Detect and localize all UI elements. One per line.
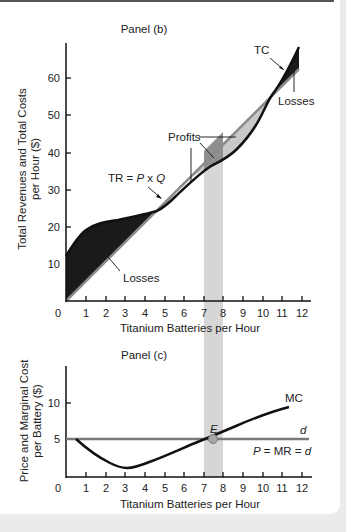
c-xtick-1: 1 bbox=[83, 482, 89, 494]
c-xtick-4: 4 bbox=[142, 482, 148, 494]
panel-c: 5 10 0 1 2 3 4 5 6 7 8 9 10 11 12 Panel … bbox=[18, 349, 312, 510]
tr-line bbox=[66, 69, 299, 301]
b-xtick-10: 10 bbox=[257, 307, 269, 319]
panel-c-ylabel-line2: per Battery ($) bbox=[31, 384, 43, 458]
losses-bottom-pointer bbox=[108, 257, 120, 271]
b-ytick-60: 60 bbox=[48, 72, 60, 84]
b-xtick-3: 3 bbox=[122, 307, 128, 319]
b-xtick-4: 4 bbox=[142, 307, 148, 319]
b-y-tick-labels: 10 20 30 40 50 60 bbox=[48, 72, 60, 270]
b-ytick-30: 30 bbox=[48, 184, 60, 196]
b-xtick-11: 11 bbox=[276, 307, 287, 319]
panel-c-ylabel-line1: Price and Marginal Cost bbox=[18, 359, 30, 483]
pmr-label: P = MR = d bbox=[253, 445, 312, 457]
c-ytick-5: 5 bbox=[54, 433, 60, 445]
panel-c-ylabel: Price and Marginal Cost per Battery ($) bbox=[18, 359, 43, 483]
b-xtick-0: 0 bbox=[55, 307, 61, 319]
losses-top-label: Losses bbox=[278, 95, 315, 107]
b-xtick-8: 8 bbox=[220, 307, 226, 319]
c-xtick-6: 6 bbox=[181, 482, 187, 494]
b-xtick-12: 12 bbox=[296, 307, 308, 319]
b-xtick-9: 9 bbox=[240, 307, 246, 319]
panel-b-xlabel: Titanium Batteries per Hour bbox=[120, 322, 260, 334]
panel-b-title: Panel (b) bbox=[121, 23, 168, 35]
tr-label-prefix: TR = bbox=[108, 172, 136, 184]
panel-c-title: Panel (c) bbox=[121, 349, 167, 361]
c-xtick-8: 8 bbox=[220, 482, 226, 494]
b-x-tick-labels: 0 1 2 3 4 5 6 7 8 9 10 11 12 bbox=[55, 307, 308, 319]
b-ytick-50: 50 bbox=[48, 109, 60, 121]
panel-c-xlabel: Titanium Batteries per Hour bbox=[120, 498, 260, 510]
b-xtick-5: 5 bbox=[162, 307, 168, 319]
c-y-tick-labels: 5 10 bbox=[48, 397, 60, 445]
panel-b-ylabel-line1: Total Revenues and Total Costs bbox=[16, 88, 28, 250]
tr-label: TR = P x Q bbox=[108, 172, 165, 184]
c-xtick-7: 7 bbox=[201, 482, 207, 494]
b-xtick-2: 2 bbox=[103, 307, 109, 319]
tc-label: TC bbox=[254, 44, 269, 56]
c-xtick-12: 12 bbox=[296, 482, 308, 494]
losses-bottom-label: Losses bbox=[123, 272, 160, 284]
mc-curve bbox=[76, 407, 289, 468]
pmr-label-d: d bbox=[305, 445, 312, 457]
c-xtick-11: 11 bbox=[276, 482, 287, 494]
c-ytick-10: 10 bbox=[48, 397, 60, 409]
e-label: E bbox=[210, 423, 218, 435]
b-xtick-1: 1 bbox=[83, 307, 89, 319]
c-xtick-0: 0 bbox=[55, 482, 61, 494]
tr-label-mid: x bbox=[144, 172, 156, 184]
panel-b-ylabel: Total Revenues and Total Costs per Hour … bbox=[16, 88, 41, 250]
b-xtick-6: 6 bbox=[181, 307, 187, 319]
b-ytick-40: 40 bbox=[48, 147, 60, 159]
c-xtick-10: 10 bbox=[257, 482, 269, 494]
profits-label: Profits bbox=[168, 131, 201, 143]
c-x-tick-labels: 0 1 2 3 4 5 6 7 8 9 10 11 12 bbox=[55, 482, 308, 494]
pmr-label-rest: = MR = bbox=[261, 445, 305, 457]
c-xtick-2: 2 bbox=[103, 482, 109, 494]
panel-b-ylabel-line2: per Hour ($) bbox=[29, 138, 41, 200]
c-xtick-9: 9 bbox=[240, 482, 246, 494]
mc-label: MC bbox=[285, 392, 303, 404]
c-xtick-5: 5 bbox=[162, 482, 168, 494]
d-label: d bbox=[300, 424, 307, 436]
equilibrium-point-e bbox=[209, 435, 218, 444]
tr-label-q: Q bbox=[156, 172, 165, 184]
chart-canvas: 10 20 30 40 50 60 0 1 2 3 4 5 6 7 8 9 10… bbox=[0, 0, 346, 532]
b-xtick-7: 7 bbox=[201, 307, 207, 319]
panel-b: 10 20 30 40 50 60 0 1 2 3 4 5 6 7 8 9 10… bbox=[16, 23, 315, 334]
b-ytick-20: 20 bbox=[48, 221, 60, 233]
c-xtick-3: 3 bbox=[122, 482, 128, 494]
b-ytick-10: 10 bbox=[48, 258, 60, 270]
